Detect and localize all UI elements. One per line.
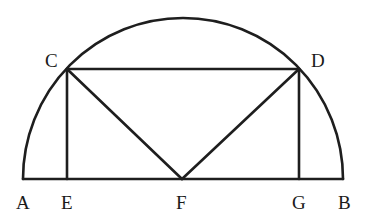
label-e: E — [61, 192, 73, 213]
label-g: G — [292, 192, 306, 213]
label-a: A — [16, 192, 30, 213]
geometry-diagram: A E F G B C D — [0, 0, 367, 220]
semicircle-arc — [23, 18, 343, 179]
segment-df — [182, 69, 299, 179]
label-b: B — [338, 192, 351, 213]
label-c: C — [45, 50, 58, 71]
label-f: F — [176, 192, 187, 213]
segment-cf — [67, 69, 182, 179]
label-d: D — [311, 50, 325, 71]
